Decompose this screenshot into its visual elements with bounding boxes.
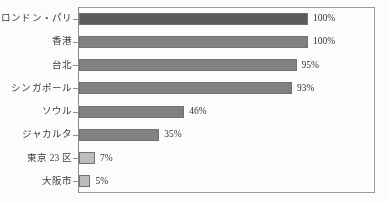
bar-row: 東京 23 区7% <box>0 147 390 170</box>
bar <box>79 152 95 164</box>
bar-row: ソウル46% <box>0 100 390 123</box>
category-label: 東京 23 区 <box>0 153 72 164</box>
bar-value-label: 95% <box>302 60 319 71</box>
category-label: シンガポール <box>0 83 72 94</box>
bar-value-label: 35% <box>164 129 181 140</box>
axis-tick <box>73 158 78 159</box>
category-label: ジャカルタ <box>0 129 72 140</box>
bar-value-label: 93% <box>297 83 314 94</box>
category-label: 大阪市 <box>0 176 72 187</box>
axis-tick <box>73 19 78 20</box>
bar-value-label: 7% <box>100 153 113 164</box>
axis-tick <box>73 42 78 43</box>
category-label: ソウル <box>0 106 72 117</box>
bar <box>79 36 308 48</box>
axis-tick <box>73 88 78 89</box>
category-label: ロンドン・パリ <box>0 13 72 24</box>
bar-row: 香港100% <box>0 30 390 53</box>
bar-value-label: 100% <box>313 36 335 47</box>
bar <box>79 106 184 118</box>
bar-row: 大阪市5% <box>0 170 390 193</box>
bar-row: ロンドン・パリ100% <box>0 7 390 30</box>
bar <box>79 13 308 25</box>
bar-value-label: 5% <box>95 176 108 187</box>
axis-tick <box>73 135 78 136</box>
bar <box>79 129 159 141</box>
axis-tick <box>73 181 78 182</box>
axis-tick <box>73 65 78 66</box>
bar <box>79 82 292 94</box>
bar <box>79 59 297 71</box>
category-label: 香港 <box>0 36 72 47</box>
category-label: 台北 <box>0 60 72 71</box>
bar-row: シンガポール93% <box>0 77 390 100</box>
bar-value-label: 100% <box>313 13 335 24</box>
bar-row: ジャカルタ35% <box>0 123 390 146</box>
axis-tick <box>73 112 78 113</box>
bar-value-label: 46% <box>189 106 206 117</box>
bar <box>79 175 90 187</box>
chart-figure: ロンドン・パリ100%香港100%台北95%シンガポール93%ソウル46%ジャカ… <box>0 0 390 202</box>
bar-row: 台北95% <box>0 54 390 77</box>
